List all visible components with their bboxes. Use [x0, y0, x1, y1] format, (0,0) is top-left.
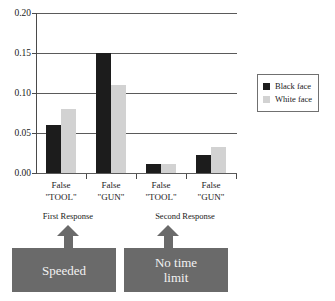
x-category-label-group-3: False "TOOL"	[133, 180, 189, 203]
x-category-line2-group-2: "GUN"	[83, 192, 139, 204]
annotation-caption-second-response: Second Response	[130, 211, 240, 221]
annotation-caption-first-response: First Response	[18, 211, 118, 221]
x-category-line1-group-2: False	[83, 180, 139, 192]
x-category-line2-group-4: "GUN"	[183, 192, 239, 204]
legend-swatch-white-face-icon	[263, 96, 270, 103]
legend-item-black-face: Black face	[263, 80, 312, 93]
y-tick-mark-0.10	[32, 93, 37, 94]
condition-box-label-line1: No time	[155, 255, 197, 270]
y-tick-label-0.15: 0.15	[0, 48, 31, 58]
y-tick-label-0.00: 0.00	[0, 168, 31, 178]
arrow-up-icon-first-response-stem	[64, 235, 73, 249]
gridline-0.15	[36, 53, 237, 54]
condition-box-label-no-time-limit: No timelimit	[155, 255, 197, 285]
gridline-0.10	[36, 93, 237, 94]
condition-box-speeded: Speeded	[12, 248, 116, 292]
arrow-up-icon-second-response-stem	[164, 235, 173, 249]
chart-legend: Black face White face	[257, 74, 319, 112]
bar-white-face-false-tool-first	[61, 109, 76, 173]
y-tick-label-0.10: 0.10	[0, 88, 31, 98]
plot-area	[36, 13, 237, 173]
condition-box-label-speeded: Speeded	[42, 263, 86, 278]
condition-box-label-line2: limit	[164, 270, 189, 285]
y-tick-mark-0.15	[32, 53, 37, 54]
x-tick-mark-3	[186, 174, 187, 179]
bar-black-face-false-gun-first	[96, 53, 111, 173]
bar-white-face-false-tool-second	[161, 164, 176, 173]
bar-black-face-false-gun-second	[196, 155, 211, 173]
gridline-0.20	[36, 13, 237, 14]
x-category-line2-group-3: "TOOL"	[133, 192, 189, 204]
bar-chart-figure: 0.20 0.15 0.10 0.05 0.00 False "TOOL" Fa…	[0, 0, 335, 301]
x-category-label-group-1: False "TOOL"	[33, 180, 89, 203]
x-category-label-group-2: False "GUN"	[83, 180, 139, 203]
y-tick-mark-0.20	[32, 13, 37, 14]
legend-item-white-face: White face	[263, 93, 312, 106]
x-category-line1-group-3: False	[133, 180, 189, 192]
bar-white-face-false-gun-first	[111, 85, 126, 173]
x-category-line2-group-1: "TOOL"	[33, 192, 89, 204]
x-tick-mark-4	[236, 174, 237, 179]
x-category-label-group-4: False "GUN"	[183, 180, 239, 203]
condition-box-no-time-limit: No timelimit	[124, 248, 228, 292]
y-tick-mark-0.00	[32, 173, 37, 174]
legend-label-white-face: White face	[275, 95, 312, 104]
bar-black-face-false-tool-second	[146, 164, 161, 173]
y-tick-label-0.05: 0.05	[0, 128, 31, 138]
bar-black-face-false-tool-first	[46, 125, 61, 173]
legend-swatch-black-face-icon	[263, 83, 270, 90]
bar-white-face-false-gun-second	[211, 147, 226, 173]
x-category-line1-group-4: False	[183, 180, 239, 192]
legend-label-black-face: Black face	[275, 82, 311, 91]
y-tick-mark-0.05	[32, 133, 37, 134]
x-tick-mark-1	[86, 174, 87, 179]
x-category-line1-group-1: False	[33, 180, 89, 192]
x-tick-mark-2	[136, 174, 137, 179]
y-tick-label-0.20: 0.20	[0, 8, 31, 18]
